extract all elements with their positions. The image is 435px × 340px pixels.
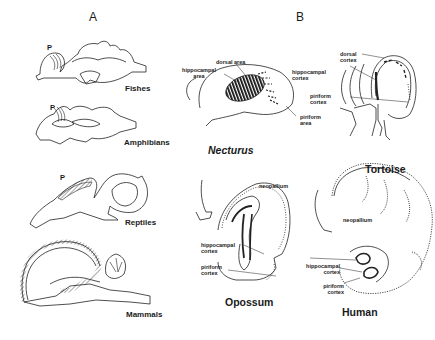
- pallium-marker-reptile: P: [60, 173, 65, 182]
- species-label-reptiles: Reptiles: [125, 218, 156, 227]
- human-hippocampal-cortex-label: hippocampal cortex: [300, 263, 340, 275]
- panel-b-letter: B: [296, 10, 304, 24]
- opossum-neopallium-label: neopallium: [259, 183, 288, 189]
- opossum-piriform-cortex-label: piriform cortex: [201, 264, 222, 276]
- pallium-marker-fish: P: [47, 43, 52, 52]
- fish-brain-drawing: [36, 41, 146, 84]
- species-label-human: Human: [342, 306, 378, 318]
- species-label-amphibians: Amphibians: [124, 138, 170, 147]
- pallium-marker-amphibian: P: [50, 103, 55, 112]
- necturus-piriform-area-label: piriform area: [300, 114, 321, 126]
- tortoise-brain-drawing: [340, 54, 416, 140]
- tortoise-hippocampal-cortex-label: hippocampal cortex: [292, 69, 326, 81]
- panel-a-letter: A: [89, 10, 97, 24]
- species-label-opossum: Opossum: [225, 296, 273, 308]
- species-label-tortoise: Tortoise: [365, 163, 406, 175]
- mammal-brain-drawing: [22, 242, 150, 306]
- species-label-necturus: Necturus: [208, 144, 254, 156]
- human-neopallium-label: neopallium: [343, 217, 372, 223]
- species-label-mammals: Mammals: [126, 310, 162, 319]
- necturus-hippocampal-area-label: hippocampal area: [178, 67, 220, 79]
- necturus-dorsal-area-label: dorsal area: [216, 59, 245, 65]
- species-label-fishes: Fishes: [125, 84, 150, 93]
- human-piriform-cortex-label: piriform cortex: [310, 283, 344, 295]
- tortoise-piriform-cortex-label: piriform cortex: [310, 93, 331, 105]
- opossum-hippocampal-cortex-label: hippocampal cortex: [201, 242, 235, 254]
- tortoise-dorsal-cortex-label: dorsal cortex: [340, 51, 357, 63]
